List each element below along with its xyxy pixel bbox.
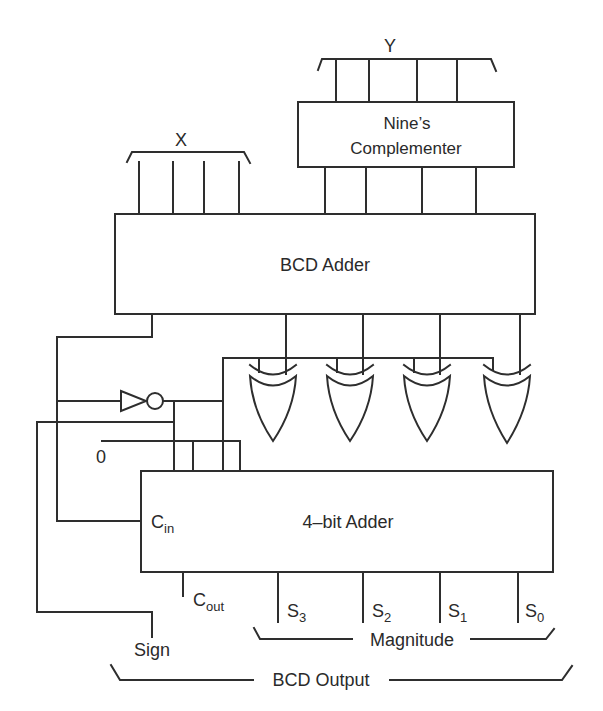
bcd-output-brace-group: BCD Output [111, 665, 572, 690]
magnitude-label: Magnitude [370, 630, 454, 650]
magnitude-brace-left [254, 628, 352, 639]
bcd-output-label: BCD Output [272, 670, 369, 690]
cout-label: Cout [193, 590, 224, 614]
inverter-triangle [121, 391, 146, 411]
magnitude-brace-group: Magnitude [254, 628, 554, 650]
x-label: X [175, 130, 187, 150]
zero-label: 0 [96, 447, 106, 467]
bcd-circuit-diagram: Y Nine’s Complementer X BCD Adder [0, 0, 603, 711]
xor-gate [484, 365, 530, 443]
x-input-group: X [127, 130, 250, 214]
four-bit-adder-block: 4–bit Adder Cin [141, 471, 553, 572]
xor-gate [404, 365, 450, 441]
x-brace [127, 152, 250, 163]
magnitude-brace-right [471, 629, 554, 639]
y-brace [318, 59, 496, 71]
sign-label: Sign [134, 640, 170, 660]
four-bit-adder-label: 4–bit Adder [302, 512, 393, 532]
inverter-bubble [147, 393, 163, 409]
bcd-output-brace-left [111, 665, 253, 680]
nines-complementer-label-line2: Complementer [350, 139, 462, 158]
y-label: Y [384, 36, 396, 56]
xor-gate [327, 365, 373, 441]
s0-label: S0 [525, 601, 544, 625]
s2-label: S2 [372, 601, 391, 625]
bcd-carry-to-cin-wire [57, 314, 152, 521]
bcd-output-brace-right [390, 666, 572, 680]
xor-gate [250, 365, 296, 441]
s3-label: S3 [287, 601, 306, 625]
nines-complementer-block: Nine’s Complementer [298, 102, 514, 214]
y-input-group: Y [318, 36, 496, 102]
bcd-adder-block: BCD Adder [115, 214, 535, 314]
inverter-gate [57, 391, 223, 411]
bcd-adder-label: BCD Adder [280, 255, 370, 275]
nines-complementer-label-line1: Nine’s [384, 114, 431, 133]
s1-label: S1 [448, 601, 467, 625]
